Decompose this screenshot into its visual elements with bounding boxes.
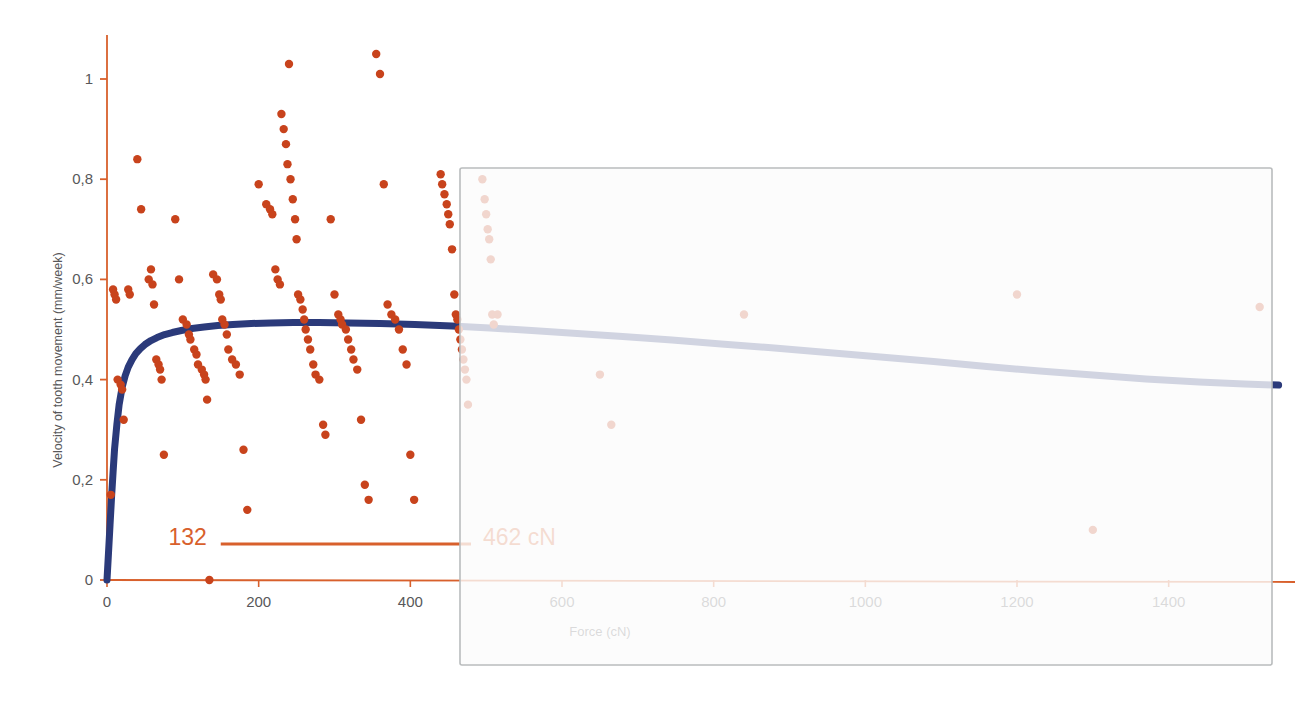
data-point bbox=[254, 180, 262, 188]
data-point bbox=[402, 360, 410, 368]
data-point bbox=[243, 506, 251, 514]
data-point bbox=[300, 315, 308, 323]
data-point bbox=[391, 315, 399, 323]
data-point bbox=[285, 60, 293, 68]
data-point bbox=[157, 375, 165, 383]
data-point bbox=[268, 210, 276, 218]
data-point bbox=[186, 335, 194, 343]
data-point bbox=[321, 431, 329, 439]
data-point bbox=[450, 290, 458, 298]
data-point bbox=[192, 350, 200, 358]
chart-figure: 00,20,40,60,810200400600800100012001400F… bbox=[0, 0, 1311, 703]
data-point bbox=[347, 345, 355, 353]
data-point bbox=[150, 300, 158, 308]
data-point bbox=[436, 170, 444, 178]
data-point bbox=[271, 265, 279, 273]
data-point bbox=[395, 325, 403, 333]
data-point bbox=[213, 275, 221, 283]
y-tick-label-5: 1 bbox=[85, 70, 93, 87]
data-point bbox=[283, 160, 291, 168]
data-point bbox=[376, 70, 384, 78]
data-point bbox=[306, 345, 314, 353]
data-point bbox=[357, 415, 365, 423]
data-point bbox=[443, 200, 451, 208]
data-point bbox=[292, 235, 300, 243]
data-point bbox=[201, 375, 209, 383]
data-point bbox=[171, 215, 179, 223]
data-point bbox=[276, 280, 284, 288]
data-point bbox=[112, 295, 120, 303]
data-point bbox=[137, 205, 145, 213]
data-point bbox=[277, 110, 285, 118]
data-point bbox=[133, 155, 141, 163]
force-range-left-label: 132 bbox=[168, 524, 206, 550]
data-point bbox=[309, 360, 317, 368]
data-point bbox=[364, 496, 372, 504]
data-point bbox=[349, 355, 357, 363]
force-velocity-scatter-chart: 00,20,40,60,810200400600800100012001400F… bbox=[0, 0, 1311, 703]
data-point bbox=[406, 451, 414, 459]
data-point bbox=[147, 265, 155, 273]
data-point bbox=[160, 451, 168, 459]
data-point bbox=[298, 305, 306, 313]
data-point bbox=[330, 290, 338, 298]
data-point bbox=[291, 215, 299, 223]
data-point bbox=[182, 320, 190, 328]
data-point bbox=[148, 280, 156, 288]
y-tick-label-4: 0,8 bbox=[72, 170, 93, 187]
data-point bbox=[361, 481, 369, 489]
data-point bbox=[224, 345, 232, 353]
data-point bbox=[319, 420, 327, 428]
data-point bbox=[239, 446, 247, 454]
data-point bbox=[126, 290, 134, 298]
data-point bbox=[119, 415, 127, 423]
data-point bbox=[315, 375, 323, 383]
data-point bbox=[399, 345, 407, 353]
data-point bbox=[223, 330, 231, 338]
gray-overlay-panel bbox=[460, 168, 1272, 665]
data-point bbox=[236, 370, 244, 378]
data-point bbox=[301, 325, 309, 333]
data-point bbox=[220, 320, 228, 328]
data-point bbox=[344, 335, 352, 343]
data-point bbox=[380, 180, 388, 188]
data-point bbox=[440, 190, 448, 198]
data-point bbox=[353, 365, 361, 373]
data-point bbox=[289, 195, 297, 203]
data-point bbox=[175, 275, 183, 283]
data-point bbox=[304, 335, 312, 343]
x-tick-label-1: 200 bbox=[246, 593, 271, 610]
y-tick-label-2: 0,4 bbox=[72, 371, 93, 388]
data-point bbox=[410, 496, 418, 504]
data-point bbox=[282, 140, 290, 148]
data-point bbox=[203, 395, 211, 403]
data-point bbox=[232, 360, 240, 368]
x-tick-label-2: 400 bbox=[398, 593, 423, 610]
y-tick-label-0: 0 bbox=[85, 571, 93, 588]
data-point bbox=[446, 220, 454, 228]
data-point bbox=[286, 175, 294, 183]
data-point bbox=[327, 215, 335, 223]
data-point bbox=[279, 125, 287, 133]
data-point bbox=[448, 245, 456, 253]
data-point bbox=[107, 491, 115, 499]
data-point bbox=[383, 300, 391, 308]
data-point bbox=[342, 325, 350, 333]
data-point bbox=[444, 210, 452, 218]
data-point bbox=[205, 576, 213, 584]
data-point bbox=[217, 295, 225, 303]
data-point bbox=[296, 295, 304, 303]
y-axis-title: Velocity of tooth movement (mm/week) bbox=[51, 252, 65, 467]
x-tick-label-0: 0 bbox=[103, 593, 111, 610]
data-point bbox=[438, 180, 446, 188]
y-tick-label-3: 0,6 bbox=[72, 270, 93, 287]
data-point bbox=[118, 385, 126, 393]
y-tick-label-1: 0,2 bbox=[72, 471, 93, 488]
data-point bbox=[372, 50, 380, 58]
data-point bbox=[156, 365, 164, 373]
